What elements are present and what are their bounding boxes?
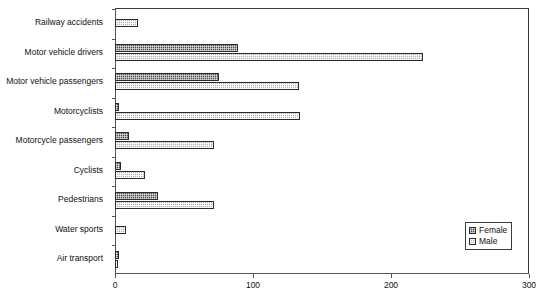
bar-female bbox=[115, 73, 219, 81]
bar-male bbox=[115, 141, 214, 149]
chart-legend: Female Male bbox=[465, 222, 512, 250]
bar-male bbox=[115, 82, 299, 90]
bar-male bbox=[115, 112, 300, 120]
bar-male bbox=[115, 260, 118, 268]
bar-female bbox=[115, 192, 158, 200]
x-axis: 0100200300 bbox=[115, 274, 529, 294]
bar-male bbox=[115, 201, 214, 209]
x-tick-label: 0 bbox=[113, 280, 118, 290]
bar-male bbox=[115, 53, 423, 61]
category-label: Motorcyclists bbox=[54, 97, 103, 127]
legend-label-female: Female bbox=[479, 225, 507, 236]
bar-female bbox=[115, 103, 119, 111]
legend-item-male: Male bbox=[469, 236, 507, 247]
category-axis-labels: Railway accidentsMotor vehicle driversMo… bbox=[0, 8, 110, 274]
bar-chart: Railway accidentsMotor vehicle driversMo… bbox=[0, 0, 546, 300]
bar-group bbox=[115, 156, 529, 186]
x-tick-mark bbox=[391, 274, 392, 278]
category-label: Motor vehicle drivers bbox=[25, 38, 103, 68]
bar-female bbox=[115, 162, 121, 170]
bar-group bbox=[115, 126, 529, 156]
x-tick-label: 200 bbox=[384, 280, 398, 290]
category-label: Water sports bbox=[55, 215, 103, 245]
bar-male bbox=[115, 19, 138, 27]
x-tick-mark bbox=[529, 274, 530, 278]
bar-group bbox=[115, 97, 529, 127]
category-label: Air transport bbox=[57, 244, 103, 274]
x-tick-mark bbox=[115, 274, 116, 278]
bar-female bbox=[115, 251, 119, 259]
category-label: Railway accidents bbox=[35, 8, 103, 38]
bar-female bbox=[115, 132, 129, 140]
bar-female bbox=[115, 44, 238, 52]
category-label: Motor vehicle passengers bbox=[6, 67, 103, 97]
bar-group bbox=[115, 38, 529, 68]
male-hatch-swatch bbox=[469, 238, 476, 245]
bar-group bbox=[115, 185, 529, 215]
x-tick-label: 300 bbox=[522, 280, 536, 290]
female-hatch-swatch bbox=[469, 227, 476, 234]
bar-male bbox=[115, 226, 126, 234]
legend-item-female: Female bbox=[469, 225, 507, 236]
bar-group bbox=[115, 8, 529, 38]
bar-group bbox=[115, 67, 529, 97]
category-label: Motorcycle passengers bbox=[16, 126, 103, 156]
x-tick-label: 100 bbox=[246, 280, 260, 290]
x-tick-mark bbox=[253, 274, 254, 278]
category-label: Pedestrians bbox=[58, 185, 103, 215]
category-label: Cyclists bbox=[74, 156, 103, 186]
bar-male bbox=[115, 171, 145, 179]
legend-label-male: Male bbox=[479, 236, 497, 247]
